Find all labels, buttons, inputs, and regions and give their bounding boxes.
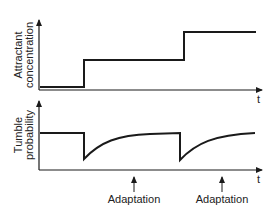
- bottom-y-label-line2: probability: [23, 109, 35, 160]
- adaptation-label-1: Adaptation: [108, 193, 161, 205]
- bottom-x-label: t: [257, 173, 260, 185]
- attractant-step-line: [40, 32, 256, 87]
- chemotaxis-diagram: Attractant concentration t Tumble probab…: [0, 0, 275, 215]
- tumble-probability-curve: [40, 133, 255, 160]
- adaptation-label-2: Adaptation: [196, 193, 249, 205]
- bottom-panel: Tumble probability t Adaptation Adaptati…: [12, 101, 262, 205]
- top-y-label-line2: concentration: [23, 22, 35, 88]
- top-panel: Attractant concentration t: [12, 20, 262, 105]
- top-x-label: t: [257, 93, 260, 105]
